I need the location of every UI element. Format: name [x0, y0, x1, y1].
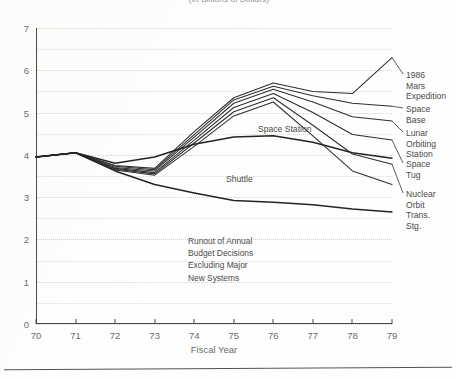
- y-tick-label: 0: [24, 319, 29, 330]
- chart-page: (In Billions of Dollars) 01234567 707172…: [0, 0, 458, 379]
- series-label-lunar-orbiting-station: Lunar Orbiting Station: [406, 128, 436, 160]
- x-axis-title: Fiscal Year: [36, 344, 392, 355]
- x-tick-label: 78: [347, 330, 358, 341]
- y-tick-label: 5: [24, 107, 29, 118]
- y-tick-label: 6: [24, 65, 29, 76]
- y-tick-label: 2: [24, 234, 29, 245]
- x-tick-label: 76: [268, 330, 279, 341]
- leader-line: [392, 58, 403, 74]
- series-label-nuclear-orbit-trans-stg: Nuclear Orbit Trans. Stg.: [406, 189, 436, 232]
- leader-line: [392, 164, 403, 193]
- runout-annotation: Runout of Annual Budget Decisions Exclud…: [188, 235, 253, 284]
- leader-line: [392, 106, 403, 108]
- chart-title: (In Billions of Dollars): [0, 0, 458, 4]
- x-tick-label: 74: [189, 330, 200, 341]
- series-label-1986-mars-expedition: 1986 Mars Expedition: [406, 70, 446, 102]
- y-tick-label: 7: [24, 23, 29, 34]
- y-tick-label: 3: [24, 192, 29, 203]
- grid-line: [36, 324, 392, 325]
- plot-area: 01234567 70717273747576777879 1986 Mars …: [36, 28, 392, 324]
- x-tick-label: 72: [110, 330, 121, 341]
- x-tick-label: 75: [228, 330, 239, 341]
- x-tick-label: 73: [149, 330, 160, 341]
- leader-line: [392, 121, 403, 132]
- x-tick-label: 71: [70, 330, 81, 341]
- series-label-space-station: Space Station: [258, 124, 312, 135]
- x-tick-label: 70: [31, 330, 42, 341]
- y-tick-label: 4: [24, 149, 29, 160]
- series-label-space-tug: Space Tug: [406, 159, 430, 180]
- y-tick-label: 1: [24, 276, 29, 287]
- page-bottom-rule: [4, 367, 452, 371]
- series-label-space-base: Space Base: [406, 104, 430, 125]
- x-tick-label: 77: [308, 330, 319, 341]
- x-tick-label: 79: [387, 330, 398, 341]
- series-label-shuttle: Shuttle: [226, 174, 253, 185]
- leader-line: [392, 140, 403, 163]
